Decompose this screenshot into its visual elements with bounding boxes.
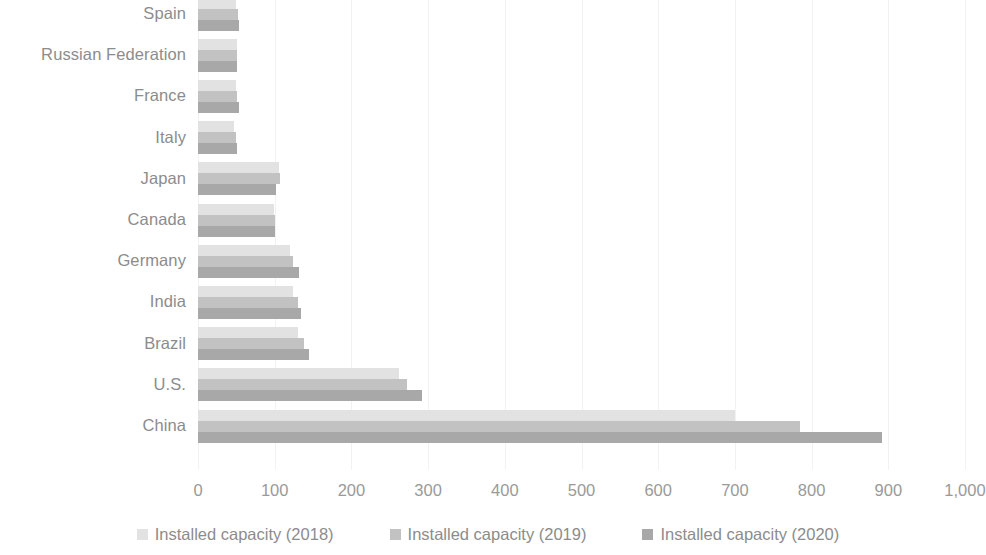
bar-china-2018	[198, 410, 735, 421]
legend-swatch-icon	[390, 529, 401, 540]
bar-india-2018	[198, 286, 293, 297]
bar-japan-2018	[198, 162, 279, 173]
category-label: Spain	[0, 4, 186, 23]
gridline	[888, 0, 889, 470]
bar-germany-2018	[198, 245, 290, 256]
gridline	[658, 0, 659, 470]
x-tick-label: 900	[875, 481, 903, 500]
bar-russian-federation-2019	[198, 50, 237, 61]
gridline	[965, 0, 966, 470]
legend-label: Installed capacity (2019)	[408, 525, 587, 544]
legend-swatch-icon	[642, 529, 653, 540]
bar-germany-2020	[198, 267, 299, 278]
bar-china-2020	[198, 432, 882, 443]
x-tick-label: 800	[798, 481, 826, 500]
legend-label: Installed capacity (2018)	[155, 525, 334, 544]
chart-legend: Installed capacity (2018)Installed capac…	[0, 525, 976, 544]
gridline	[505, 0, 506, 470]
bar-brazil-2020	[198, 349, 309, 360]
x-tick-label: 500	[568, 481, 596, 500]
gridline	[812, 0, 813, 470]
bar-spain-2019	[198, 9, 238, 20]
bar-japan-2020	[198, 184, 276, 195]
bar-spain-2018	[198, 0, 236, 9]
bar-brazil-2019	[198, 338, 304, 349]
x-tick-label: 100	[261, 481, 289, 500]
bar-germany-2019	[198, 256, 293, 267]
category-label: Germany	[0, 251, 186, 270]
category-label: U.S.	[0, 375, 186, 394]
x-tick-label: 700	[721, 481, 749, 500]
x-tick-label: 300	[414, 481, 442, 500]
bar-france-2020	[198, 102, 239, 113]
x-tick-label: 200	[338, 481, 366, 500]
x-tick-label: 0	[193, 481, 202, 500]
category-label: China	[0, 416, 186, 435]
bar-italy-2020	[198, 143, 237, 154]
bar-france-2018	[198, 80, 236, 91]
bar-brazil-2018	[198, 327, 298, 338]
legend-item[interactable]: Installed capacity (2019)	[390, 525, 587, 544]
gridline	[735, 0, 736, 470]
legend-item[interactable]: Installed capacity (2020)	[642, 525, 839, 544]
category-label: France	[0, 86, 186, 105]
legend-label: Installed capacity (2020)	[660, 525, 839, 544]
bar-u-s--2019	[198, 379, 407, 390]
bar-india-2020	[198, 308, 301, 319]
category-label: Japan	[0, 169, 186, 188]
category-label: Brazil	[0, 334, 186, 353]
bar-spain-2020	[198, 20, 239, 31]
legend-swatch-icon	[137, 529, 148, 540]
category-label: India	[0, 292, 186, 311]
bar-russian-federation-2018	[198, 39, 237, 50]
legend-item[interactable]: Installed capacity (2018)	[137, 525, 334, 544]
x-tick-label: 600	[644, 481, 672, 500]
bar-japan-2019	[198, 173, 280, 184]
gridline	[582, 0, 583, 470]
gridline	[428, 0, 429, 470]
bar-canada-2020	[198, 226, 275, 237]
bar-u-s--2018	[198, 368, 399, 379]
plot-area	[198, 0, 965, 470]
x-tick-label: 400	[491, 481, 519, 500]
bar-italy-2018	[198, 121, 234, 132]
category-label: Italy	[0, 128, 186, 147]
bar-italy-2019	[198, 132, 236, 143]
bar-india-2019	[198, 297, 298, 308]
bar-canada-2018	[198, 204, 274, 215]
bar-russian-federation-2020	[198, 61, 237, 72]
category-label: Russian Federation	[0, 45, 186, 64]
bar-canada-2019	[198, 215, 275, 226]
bar-china-2019	[198, 421, 800, 432]
x-tick-label: 1,000	[944, 481, 985, 500]
bar-u-s--2020	[198, 390, 422, 401]
category-label: Canada	[0, 210, 186, 229]
bar-france-2019	[198, 91, 237, 102]
